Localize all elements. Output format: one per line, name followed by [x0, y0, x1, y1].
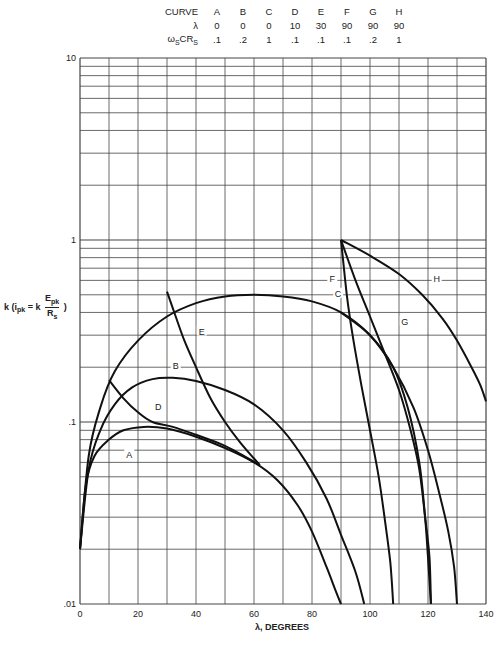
y-label-close: ): [64, 302, 67, 312]
x-tick-label: 0: [77, 609, 82, 619]
x-tick-label: 60: [249, 609, 259, 619]
x-tick-label: 40: [191, 609, 201, 619]
curve-label-a: A: [126, 450, 132, 460]
curve-b: [80, 378, 364, 604]
curve-label-h: H: [433, 274, 440, 284]
y-tick-label: 1: [71, 235, 76, 245]
curve-h: [341, 240, 486, 401]
curve-label-c: C: [335, 289, 342, 299]
curve-label-d: D: [155, 402, 162, 412]
x-axis-label: λ, DEGREES: [255, 622, 309, 632]
y-label-fraction: Epk Rs: [45, 293, 59, 322]
x-tick-label: 80: [307, 609, 317, 619]
x-tick-label: 20: [133, 609, 143, 619]
plot-area: 020406080100120140.01.1110 ABCDEFGH λ, D…: [0, 0, 502, 649]
x-tick-label: 140: [478, 609, 493, 619]
y-label-k: k: [4, 302, 9, 312]
y-label-numerator: Epk: [45, 293, 59, 308]
curve-label-f: F: [330, 274, 336, 284]
numerator-sub: pk: [51, 298, 59, 305]
x-tick-label: 100: [362, 609, 377, 619]
y-tick-label: .1: [68, 417, 76, 427]
y-label-eq: = k: [28, 302, 41, 312]
curve-label-e: E: [199, 327, 205, 337]
axis-tick-labels: 020406080100120140.01.1110: [63, 53, 493, 619]
curve-label-b: B: [173, 361, 179, 371]
y-tick-label: 10: [66, 53, 76, 63]
y-label-i-sub: pk: [17, 306, 25, 313]
curve-label-g: G: [401, 317, 408, 327]
denominator-sub: s: [53, 313, 57, 320]
y-label-denominator: Rs: [45, 308, 59, 322]
y-axis-label: k (ipk = k Epk Rs ): [4, 293, 67, 322]
x-tick-label: 120: [420, 609, 435, 619]
curve-a: [80, 427, 341, 604]
y-tick-label: .01: [63, 599, 76, 609]
